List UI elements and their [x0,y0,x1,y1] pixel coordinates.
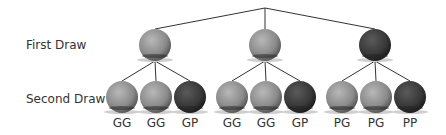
branch-line [232,61,265,81]
outcome-label: GG [105,116,139,130]
outcome-label: GP [283,116,317,130]
branch-line [375,61,376,81]
branch-line [155,61,156,81]
outcome-label: PG [325,116,359,130]
branch-line [122,61,155,81]
outcome-label: PG [359,116,393,130]
outcome-label: GG [139,116,173,130]
outcome-label: GG [249,116,283,130]
outcome-label: PP [393,116,427,130]
branch-line [265,61,266,81]
second-draw-label: Second Draw [26,92,105,106]
outcome-label: GG [215,116,249,130]
branch-line [342,61,375,81]
branch-line [155,8,265,29]
branch-line [265,8,375,29]
outcome-label: GP [173,116,207,130]
tree-diagram [0,0,446,135]
branch-line [155,61,190,81]
first-draw-label: First Draw [26,38,86,52]
branch-line [265,61,300,81]
branch-line [375,61,410,81]
